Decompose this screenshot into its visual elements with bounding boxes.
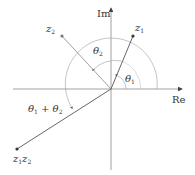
point-product [15,147,18,150]
point-z2 [60,34,63,37]
ray-product [17,89,111,149]
theta2-label: θ2 [93,46,103,57]
theta1-label: θ1 [125,74,135,85]
imag-axis-label: Im [97,9,110,19]
real-axis-label: Re [172,95,185,105]
z2-label: z2 [46,24,55,35]
z1-label: z1 [135,23,144,34]
theta-sum-label: θ1 + θ2 [28,104,62,115]
arc-theta2 [93,60,121,70]
point-z1 [131,34,134,37]
complex-plane-diagram [0,0,195,175]
product-label: z1z2 [13,154,31,165]
